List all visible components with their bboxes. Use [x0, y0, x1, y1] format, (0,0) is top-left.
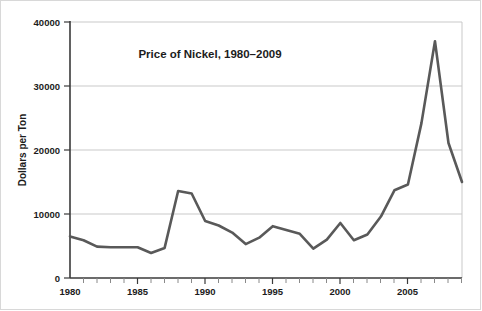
gridlines [70, 86, 462, 214]
x-tick-label-2005: 2005 [397, 286, 419, 297]
x-tick-label-1985: 1985 [127, 286, 149, 297]
x-axis-tick-labels: 1980 1985 1990 1995 2000 2005 [59, 286, 418, 297]
y-tick-label-10000: 10000 [34, 209, 60, 220]
chart-title: Price of Nickel, 1980–2009 [138, 48, 281, 60]
y-tick-label-30000: 30000 [34, 81, 60, 92]
y-tick-marks [64, 22, 70, 278]
x-tick-label-1980: 1980 [59, 286, 80, 297]
nickel-price-line-chart: 40000 30000 20000 10000 0 1980 1985 1990… [0, 0, 482, 311]
y-tick-label-0: 0 [55, 273, 60, 284]
x-tick-marks [84, 278, 462, 284]
chart-figure: 40000 30000 20000 10000 0 1980 1985 1990… [0, 0, 482, 311]
y-axis-title: Dollars per Ton [17, 114, 28, 187]
x-tick-label-1990: 1990 [194, 286, 215, 297]
y-axis-tick-labels: 40000 30000 20000 10000 0 [34, 17, 60, 284]
price-of-nickel-line [70, 41, 462, 253]
y-tick-label-20000: 20000 [34, 145, 60, 156]
x-tick-label-2000: 2000 [329, 286, 350, 297]
y-tick-label-40000: 40000 [34, 17, 60, 28]
x-tick-label-1995: 1995 [262, 286, 284, 297]
